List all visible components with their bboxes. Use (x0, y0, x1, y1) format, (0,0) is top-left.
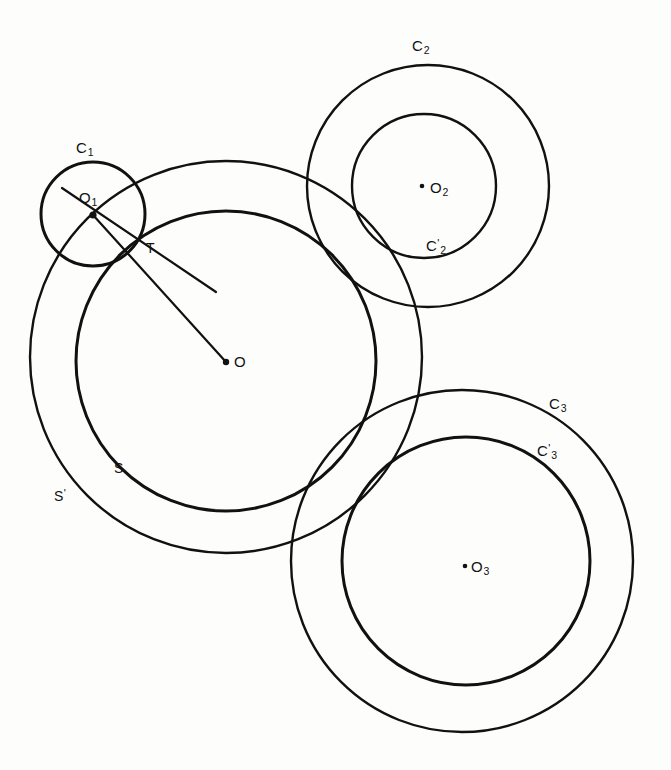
point-o3 (463, 564, 468, 569)
segment-o1-o (93, 215, 226, 362)
label-o: O (234, 354, 246, 369)
label-c3: C3 (549, 396, 566, 411)
label-s: S (114, 461, 124, 475)
diagram-canvas (0, 0, 671, 770)
point-o1 (89, 211, 96, 218)
label-t: T (146, 241, 155, 255)
label-c2: C2 (412, 38, 429, 53)
label-o1: O1 (79, 190, 97, 205)
point-o2 (420, 184, 425, 189)
label-c2-prime: C'2 (426, 238, 446, 253)
geometry-figure: C1 O1 T O S S' C2 O2 C'2 C3 C'3 O3 (0, 0, 671, 770)
point-o (223, 359, 229, 365)
label-c1: C1 (76, 140, 93, 155)
label-o3: O3 (471, 559, 489, 574)
circle-c3-prime (342, 437, 590, 685)
circle-c2 (307, 65, 549, 307)
label-s-prime: S' (54, 489, 66, 503)
label-o2: O2 (430, 180, 448, 195)
label-c3-prime: C'3 (537, 443, 557, 458)
